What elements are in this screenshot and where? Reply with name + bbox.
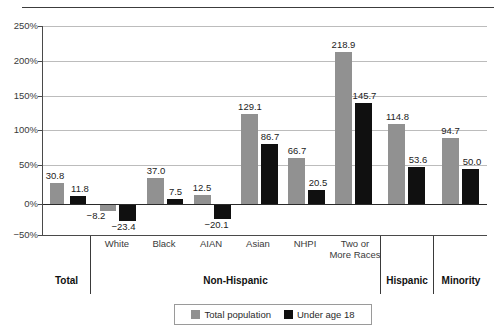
bar-total-population-hispanic[interactable] [388,124,405,204]
legend-label-under-age-18: Under age 18 [297,309,355,320]
plot-area: 30.8 11.8 −8.2 −23.4 37.0 7.5 12.5 −20.1… [43,26,487,235]
y-axis-labels: 250% 200% 150% 100% 50% 0% −50% [0,26,38,235]
legend-item-total-population[interactable]: Total population [191,309,271,320]
y-tick-150: 150% [14,91,38,101]
legend-label-total-population: Total population [204,309,271,320]
x-label-black: Black [141,238,187,249]
y-tick-50: 50% [19,160,38,170]
header-rule [22,7,494,8]
value-label-under-18-total: 11.8 [67,184,93,194]
x-label-nhpi: NHPI [282,238,328,249]
value-label-under-18-two-or-more-races: 145.7 [348,91,381,101]
bar-under-18-total[interactable] [70,196,86,204]
chart-legend: Total population Under age 18 [174,304,372,325]
clipped-title-text [0,0,494,6]
legend-swatch-under-age-18-icon [284,310,293,319]
x-label-aian: AIAN [188,238,234,249]
y-tick-0: 0% [24,199,38,209]
bar-under-18-asian[interactable] [261,144,278,204]
bar-total-population-two-or-more-races[interactable] [335,52,352,204]
chart-figure: 250% 200% 150% 100% 50% 0% −50% 30.8 11.… [0,0,494,328]
x-label-asian: Asian [235,238,281,249]
bar-total-population-black[interactable] [147,178,164,204]
bar-total-population-asian[interactable] [241,114,258,204]
x-group-hispanic: Hispanic [381,275,433,286]
value-label-total-population-nhpi: 66.7 [283,146,311,156]
x-group-total: Total [43,275,90,286]
value-label-total-population-total: 30.8 [41,171,69,181]
bar-total-population-minority[interactable] [442,138,459,204]
value-label-total-population-aian: 12.5 [188,183,216,193]
y-tick-neg50: −50% [13,230,38,240]
x-label-white: White [94,238,140,249]
value-label-total-population-asian: 129.1 [234,102,266,112]
bar-under-18-two-or-more-races[interactable] [355,103,372,204]
x-group-non-hispanic: Non-Hispanic [91,275,380,286]
x-group-minority: Minority [434,275,488,286]
value-label-total-population-black: 37.0 [142,166,170,176]
value-label-under-18-white: −23.4 [108,222,139,232]
x-axis-band: White Black AIAN Asian NHPI Two or More … [43,236,488,294]
value-label-total-population-minority: 94.7 [436,126,465,136]
value-label-under-18-nhpi: 20.5 [304,178,332,188]
legend-item-under-age-18[interactable]: Under age 18 [284,309,355,320]
value-label-under-18-black: 7.5 [164,187,187,197]
bar-total-population-total[interactable] [50,183,64,204]
value-label-total-population-two-or-more-races: 218.9 [327,40,360,50]
value-label-under-18-asian: 86.7 [256,132,284,142]
bar-total-population-nhpi[interactable] [288,158,305,204]
value-label-under-18-minority: 50.0 [458,157,486,167]
y-tick-100: 100% [14,125,38,135]
bar-under-18-hispanic[interactable] [408,167,425,204]
legend-swatch-total-population-icon [191,310,200,319]
bar-under-18-nhpi[interactable] [308,190,325,204]
bar-total-population-aian[interactable] [194,195,211,204]
y-tick-200: 200% [14,56,38,66]
value-label-under-18-hispanic: 53.6 [404,155,432,165]
bar-under-18-minority[interactable] [462,169,479,204]
bar-under-18-black[interactable] [167,199,183,204]
bar-under-18-aian[interactable] [214,205,231,219]
bar-series-container: 30.8 11.8 −8.2 −23.4 37.0 7.5 12.5 −20.1… [43,26,487,235]
bar-under-18-white[interactable] [119,205,136,221]
value-label-total-population-white: −8.2 [83,211,109,221]
y-tick-250: 250% [14,21,38,31]
value-label-total-population-hispanic: 114.8 [381,112,414,122]
x-label-two-or-more-races: Two or More Races [329,238,381,260]
value-label-under-18-aian: −20.1 [201,220,232,230]
